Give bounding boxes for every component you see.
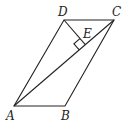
label-b: B: [60, 109, 70, 123]
label-e: E: [82, 27, 92, 41]
right-angle-marker: [74, 39, 80, 50]
parallelogram-diagram: D C E A B: [0, 0, 128, 126]
label-a: A: [5, 109, 15, 123]
label-d: D: [57, 5, 68, 19]
label-c: C: [112, 5, 121, 19]
diagonal-ac: [14, 20, 114, 106]
